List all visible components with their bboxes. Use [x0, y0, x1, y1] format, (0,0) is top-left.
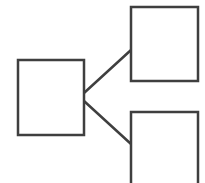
- connector-root-to-child-top: [84, 50, 131, 93]
- node-box-child-top: [131, 7, 198, 81]
- node-box-child-bottom: [131, 112, 198, 183]
- connector-root-to-child-bottom: [84, 101, 131, 144]
- connector-lines: [84, 50, 131, 144]
- diagram-nodes: [18, 7, 198, 183]
- tree-diagram: [0, 0, 205, 183]
- node-box-root: [18, 60, 84, 135]
